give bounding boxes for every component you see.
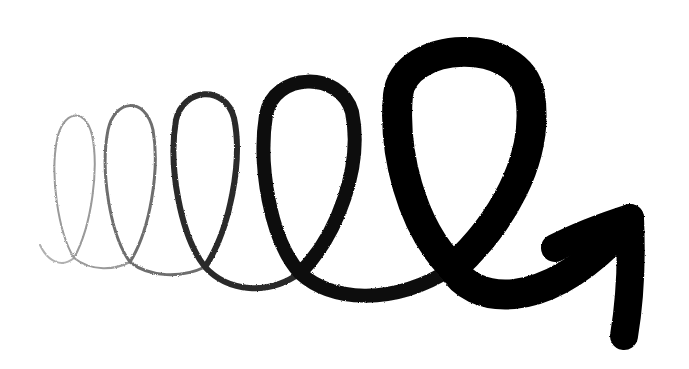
coil-loop-3	[174, 94, 300, 288]
illustration-canvas	[0, 0, 689, 369]
coil-loop-1	[54, 116, 130, 269]
spiral-arrow-icon	[0, 0, 689, 369]
coil-loop-2	[105, 106, 205, 275]
coil-loop-5	[397, 52, 626, 295]
coil-loop-4	[264, 82, 453, 296]
arrow-head-lower-barb	[624, 218, 631, 336]
